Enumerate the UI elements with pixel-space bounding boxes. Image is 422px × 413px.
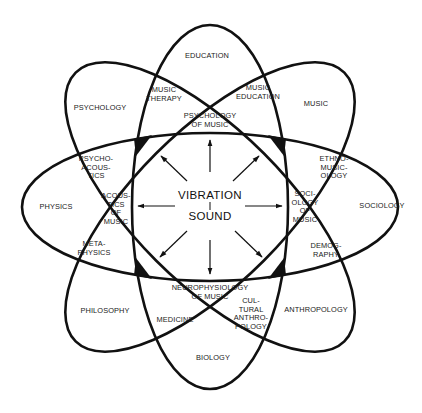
- label-music-education: MUSIC EDUCATION: [236, 84, 280, 101]
- label-sociology: SOCIOLOGY: [359, 202, 404, 211]
- label-physics: PHYSICS: [39, 203, 72, 212]
- label-cultural-anthropology: CUL- TURAL ANTHRO- POLOGY: [234, 297, 268, 331]
- label-neurophysiology-of-music: NEUROPHYSIOLOGY OF MUSIC: [172, 284, 249, 301]
- center-label-vibration: VIBRATION: [178, 189, 242, 201]
- label-biology: BIOLOGY: [196, 354, 230, 363]
- label-ethnomusicology: ETHNO- MUSIC- OLOGY: [320, 155, 349, 181]
- label-psychoacoustics: PSYCHO- ACOUS- TICS: [79, 155, 113, 181]
- arrow-down-left-icon: [160, 231, 187, 257]
- label-psychology: PSYCHOLOGY: [74, 104, 127, 113]
- label-anthropology: ANTHROPOLOGY: [284, 306, 348, 315]
- center-separator: [210, 202, 211, 210]
- label-acoustics-of-music: ACOUS- TICS OF MUSIC: [101, 192, 130, 226]
- label-music-therapy: MUSIC THERAPY: [146, 86, 182, 103]
- label-education: EDUCATION: [185, 52, 229, 61]
- arrow-down-right-icon: [235, 231, 262, 257]
- arrow-up-left-icon: [161, 156, 187, 181]
- arrow-up-right-icon: [233, 156, 259, 181]
- label-psychology-of-music: PSYCHOLOGY OF MUSIC: [184, 112, 237, 129]
- label-philosophy: PHILOSOPHY: [80, 307, 129, 316]
- center-label-sound: SOUND: [188, 210, 231, 222]
- label-sociology-of-music: SOCI- OLOGY OF MUSIC: [292, 190, 319, 224]
- label-medicine: MEDICINE: [157, 316, 194, 325]
- label-metaphysics: META- PHYSICS: [77, 240, 110, 257]
- label-music: MUSIC: [304, 100, 328, 109]
- label-demography: DEMOG- RAPHY: [311, 242, 342, 259]
